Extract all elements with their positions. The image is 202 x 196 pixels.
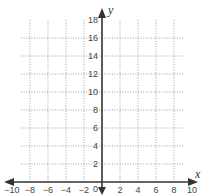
coordinate-plane: −10−8−6−4−224681024681012141618 y x 0 [0, 0, 202, 196]
y-tick-label: 4 [93, 141, 98, 151]
x-tick-label: −4 [61, 185, 71, 195]
y-axis-down-arrow-icon [98, 187, 106, 195]
origin-label: 0 [93, 184, 98, 194]
x-axis-label: x [194, 167, 201, 181]
y-tick-label: 16 [88, 33, 98, 43]
x-tick-label: 8 [171, 185, 176, 195]
y-tick-label: 10 [88, 87, 98, 97]
x-tick-label: −6 [43, 185, 53, 195]
tick-labels: −10−8−6−4−224681024681012141618 [4, 15, 197, 195]
y-tick-label: 6 [93, 123, 98, 133]
axes [4, 8, 198, 195]
y-tick-label: 18 [88, 15, 98, 25]
y-tick-label: 2 [93, 159, 98, 169]
y-tick-label: 8 [93, 105, 98, 115]
x-tick-label: −8 [25, 185, 35, 195]
x-tick-label: 6 [153, 185, 158, 195]
x-tick-label: −10 [4, 185, 19, 195]
x-tick-label: 4 [135, 185, 140, 195]
x-tick-label: −2 [79, 185, 89, 195]
y-axis-up-arrow-icon [98, 8, 106, 18]
x-tick-label: 10 [187, 185, 197, 195]
y-tick-label: 12 [88, 69, 98, 79]
y-axis-label: y [107, 3, 114, 17]
y-tick-label: 14 [88, 51, 98, 61]
x-tick-label: 2 [117, 185, 122, 195]
